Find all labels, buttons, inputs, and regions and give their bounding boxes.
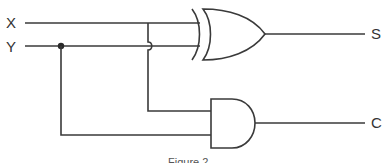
wire-y-to-and bbox=[61, 46, 211, 135]
output-label-c: C bbox=[371, 114, 382, 131]
figure-caption: Figure 2 bbox=[168, 156, 208, 163]
output-label-s: S bbox=[371, 25, 381, 42]
and-gate bbox=[211, 99, 255, 148]
xor-gate bbox=[192, 9, 265, 60]
wire-x-to-and bbox=[148, 23, 211, 111]
half-adder-diagram: X Y S C Figure 2 bbox=[0, 0, 386, 163]
input-label-y: Y bbox=[6, 38, 16, 55]
input-label-x: X bbox=[6, 14, 16, 31]
